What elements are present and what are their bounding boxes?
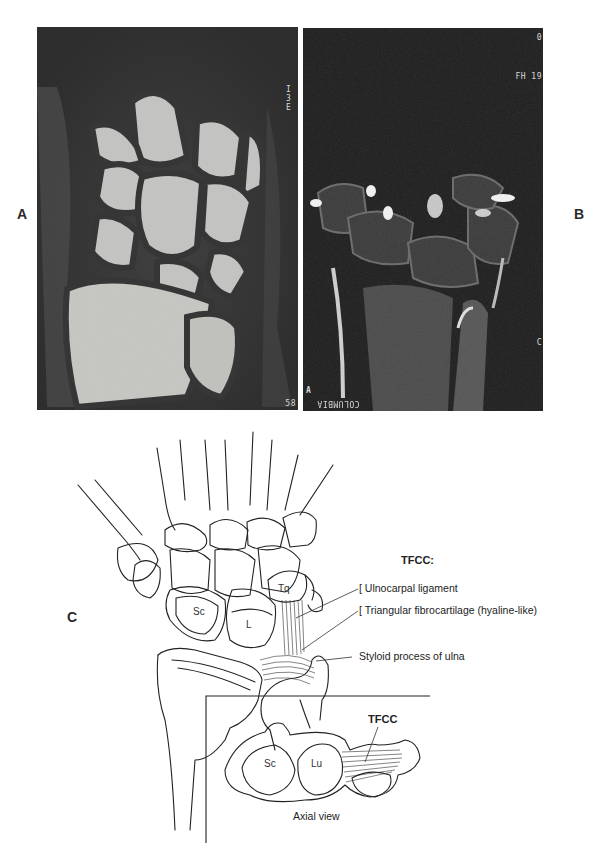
callout-bracket: [ (359, 604, 362, 616)
bone-label-scaphoid: Sc (193, 606, 205, 617)
bone-label-lunate: L (246, 619, 252, 630)
tfcc-heading: TFCC: (401, 554, 434, 566)
wrist-anatomy-illustration (0, 0, 600, 851)
callout-text: Triangular fibrocartilage (hyaline-like) (365, 604, 537, 616)
bone-label-triquetrum: Tq (278, 583, 290, 594)
callout-text: Ulnocarpal ligament (365, 582, 458, 594)
inset-caption: Axial view (293, 810, 340, 822)
callout-bracket: [ (359, 582, 362, 594)
callout-ulnocarpal-ligament: [ Ulnocarpal ligament (359, 582, 458, 594)
inset-bone-label-scaphoid: Sc (264, 758, 276, 769)
callout-triangular-fibrocartilage: [ Triangular fibrocartilage (hyaline-lik… (359, 604, 537, 616)
inset-tfcc-label: TFCC (368, 713, 397, 725)
inset-bone-label-lunate: Lu (311, 758, 322, 769)
callout-styloid-process: Styloid process of ulna (359, 650, 465, 662)
